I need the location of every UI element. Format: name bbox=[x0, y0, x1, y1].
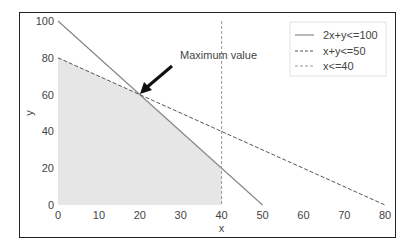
x-tick: 60 bbox=[297, 209, 309, 221]
chart-svg: Maximum value 0 20 40 60 80 100 0 10 20 … bbox=[0, 0, 412, 250]
legend-label: x<=40 bbox=[323, 60, 354, 72]
x-tick: 10 bbox=[93, 209, 105, 221]
x-tick: 50 bbox=[256, 209, 268, 221]
x-tick: 30 bbox=[175, 209, 187, 221]
y-tick: 80 bbox=[42, 52, 54, 64]
y-tick: 40 bbox=[42, 125, 54, 137]
y-tick: 60 bbox=[42, 89, 54, 101]
legend: 2x+y<=100 x+y<=50 x<=40 bbox=[290, 22, 386, 76]
legend-label: 2x+y<=100 bbox=[323, 29, 378, 41]
x-tick: 70 bbox=[338, 209, 350, 221]
y-axis-label: y bbox=[23, 110, 35, 116]
x-tick: 80 bbox=[379, 209, 391, 221]
legend-label: x+y<=50 bbox=[323, 45, 366, 57]
y-tick: 100 bbox=[36, 15, 54, 27]
y-tick: 0 bbox=[48, 199, 54, 211]
x-axis-label: x bbox=[219, 222, 225, 234]
x-tick: 20 bbox=[134, 209, 146, 221]
x-tick: 40 bbox=[215, 209, 227, 221]
y-tick: 20 bbox=[42, 162, 54, 174]
annotation-text: Maximum value bbox=[180, 49, 257, 61]
x-tick: 0 bbox=[55, 209, 61, 221]
